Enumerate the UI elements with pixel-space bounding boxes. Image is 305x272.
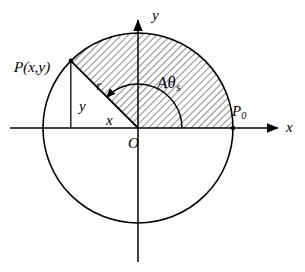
point-P-label: P(x,y) xyxy=(14,60,51,75)
x-abscissa-label: x xyxy=(106,113,113,128)
origin-label: O xyxy=(128,136,139,151)
figure-canvas: P(x,y) r y x O Aθs P0 x y xyxy=(0,0,305,272)
point-P0-marker xyxy=(231,126,235,130)
point-P0-label: P0 xyxy=(232,104,246,121)
point-P-marker xyxy=(69,59,73,63)
sector-area-label: Aθs xyxy=(156,73,181,95)
x-axis-label: x xyxy=(286,120,293,135)
circle-sector-svg xyxy=(0,0,305,272)
y-ordinate-label: y xyxy=(79,99,86,114)
y-axis-label: y xyxy=(152,8,159,23)
